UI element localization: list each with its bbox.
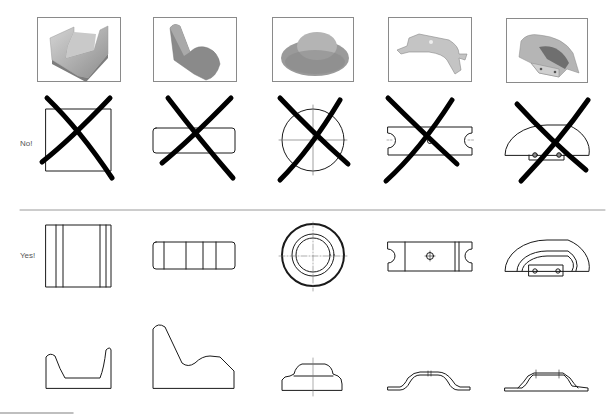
correct-front-round-knob bbox=[279, 222, 347, 291]
drawing-canvas: No! Yes! bbox=[0, 0, 615, 415]
correct-front-u-channel bbox=[46, 225, 111, 287]
cross-marks bbox=[42, 98, 588, 181]
correct-side-seat-block bbox=[153, 325, 234, 388]
correct-front-bent-strap bbox=[388, 242, 472, 271]
correct-side-formed-cover bbox=[505, 370, 588, 391]
correct-front-formed-cover bbox=[505, 240, 589, 276]
correct-side-bent-strap bbox=[388, 371, 470, 390]
correct-front-seat-block bbox=[153, 242, 235, 269]
cross-mark-1a bbox=[47, 98, 112, 178]
technical-drawings bbox=[0, 0, 615, 415]
correct-side-round-knob bbox=[282, 358, 342, 396]
correct-side-u-channel bbox=[46, 348, 111, 388]
